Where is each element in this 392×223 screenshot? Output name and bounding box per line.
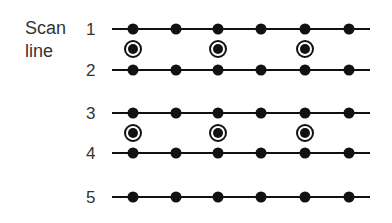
scan-line-4: 4 [86,144,370,163]
ringed-points [125,41,313,141]
sample-dot-icon [256,24,267,35]
ringed-point-icon [125,41,141,57]
sample-dot-icon [300,24,311,35]
ringed-point-icon [297,125,313,141]
sample-dot-icon [256,192,267,203]
sample-dot-icon [300,108,311,119]
sample-dot-icon [344,65,355,76]
sample-dot-icon [213,65,224,76]
scan-line-number: 2 [86,61,95,80]
sample-dot-icon [171,148,182,159]
scan-line-1: 1 [86,20,370,39]
ringed-point-icon [210,41,226,57]
sample-dot-icon [171,24,182,35]
sample-dot-icon [300,192,311,203]
sample-dot-icon [128,108,139,119]
sample-dot-icon [256,148,267,159]
sample-dot-icon [300,148,311,159]
sample-dot-icon [128,65,139,76]
sample-dot-icon [344,192,355,203]
scan-line-number: 4 [86,144,95,163]
sample-dot-icon [128,148,139,159]
scan-line-number: 5 [86,188,95,207]
scan-line-number: 1 [86,20,95,39]
ringed-point-icon [210,125,226,141]
sample-dot-icon [128,24,139,35]
scan-line-2: 2 [86,61,370,80]
scan-line-diagram: 12345 [0,0,392,223]
sample-dot-icon [171,65,182,76]
scan-line-number: 3 [86,104,95,123]
ringed-point-icon [125,125,141,141]
sample-dot-icon [128,192,139,203]
sample-dot-icon [300,65,311,76]
sample-dot-icon [256,65,267,76]
sample-dot-icon [213,24,224,35]
sample-dot-icon [344,148,355,159]
sample-dot-icon [213,192,224,203]
sample-dot-icon [171,192,182,203]
sample-dot-icon [256,108,267,119]
sample-dot-icon [213,148,224,159]
sample-dot-icon [213,108,224,119]
sample-dot-icon [171,108,182,119]
scan-line-3: 3 [86,104,370,123]
sample-dot-icon [344,24,355,35]
scan-line-5: 5 [86,188,370,207]
sample-dot-icon [344,108,355,119]
ringed-point-icon [297,41,313,57]
